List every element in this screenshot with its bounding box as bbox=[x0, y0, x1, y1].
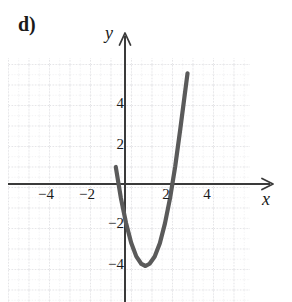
x-tick-label-neg4: −4 bbox=[36, 187, 56, 202]
y-tick-label-neg2: −2 bbox=[102, 216, 124, 231]
x-axis-label: x bbox=[262, 190, 270, 208]
x-tick-label-4: 4 bbox=[200, 187, 214, 202]
x-tick-label-neg2: −2 bbox=[77, 187, 97, 202]
y-tick-label-2: 2 bbox=[110, 137, 124, 152]
x-tick-label-2: 2 bbox=[159, 187, 173, 202]
grid-layer bbox=[8, 58, 250, 302]
y-axis-label: y bbox=[105, 24, 113, 42]
part-label: d) bbox=[18, 14, 36, 34]
y-tick-label-neg4: −4 bbox=[102, 257, 124, 272]
coordinate-plane bbox=[0, 0, 292, 302]
y-tick-label-4: 4 bbox=[110, 96, 124, 111]
graph-figure: d) y x −4 −2 2 4 4 2 −2 −4 bbox=[0, 0, 292, 302]
major-gridlines bbox=[8, 58, 250, 302]
